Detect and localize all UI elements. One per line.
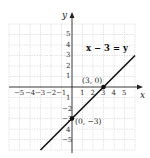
svg-text:1: 1	[80, 89, 84, 97]
equation-label: x − 3 = y	[86, 43, 129, 53]
point-0-neg3-label: (0, −3)	[75, 117, 102, 126]
svg-text:5: 5	[66, 30, 70, 38]
x-axis-arrow-icon	[137, 85, 143, 90]
point-3-0-label: (3, 0)	[82, 76, 102, 85]
svg-text:2: 2	[66, 62, 70, 70]
svg-text:3: 3	[66, 51, 70, 59]
svg-text:−2: −2	[62, 105, 72, 113]
svg-text:−5: −5	[62, 136, 72, 144]
svg-text:1: 1	[66, 72, 70, 80]
svg-text:4: 4	[112, 89, 117, 97]
svg-text:−3: −3	[35, 89, 45, 97]
y-axis-label: y	[61, 10, 68, 20]
svg-text:−1: −1	[56, 89, 66, 97]
svg-text:4: 4	[66, 41, 71, 49]
x-axis-label: x	[140, 90, 145, 100]
svg-text:−2: −2	[46, 89, 56, 97]
svg-text:5: 5	[122, 89, 126, 97]
linear-equation-graph: x y −5 −4 −3 −2 −1 1 2 3 4 5 5 4 3 2 1 1…	[0, 0, 150, 158]
svg-text:1: 1	[66, 94, 70, 102]
equation-line	[41, 56, 136, 151]
point-3-0	[101, 85, 106, 90]
svg-text:3: 3	[101, 89, 105, 97]
point-0-neg3	[70, 116, 75, 121]
y-axis-arrow-icon	[70, 12, 75, 18]
svg-text:4: 4	[66, 126, 71, 134]
svg-text:−5: −5	[14, 89, 24, 97]
